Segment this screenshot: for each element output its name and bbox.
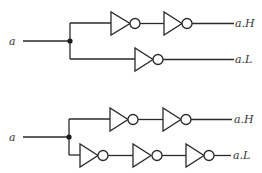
output-label: a.H: [235, 17, 255, 30]
input-label: a: [9, 131, 16, 144]
logic-diagram: a a.H a.L: [0, 0, 262, 173]
inverter-icon: [110, 108, 138, 131]
inverter-icon: [186, 144, 214, 167]
inverter-icon: [164, 12, 192, 35]
input-label: a: [9, 35, 16, 48]
path-a-l: a.L: [70, 48, 252, 71]
inverter-icon: [111, 12, 140, 35]
path-a-h: a.H: [70, 12, 255, 35]
circuit-bottom: a a.H: [9, 108, 254, 167]
path-a-h: a.H: [69, 108, 254, 131]
path-a-l: a.L: [69, 144, 250, 167]
output-label: a.L: [235, 53, 252, 66]
inverter-icon: [133, 144, 162, 167]
inverter-icon: [80, 144, 108, 167]
junction-dot: [66, 134, 71, 139]
junction-dot: [67, 38, 72, 43]
output-label: a.L: [233, 149, 250, 162]
inverter-icon: [135, 48, 163, 71]
output-label: a.H: [234, 113, 254, 126]
inverter-icon: [163, 108, 191, 131]
circuit-top: a a.H a.L: [9, 12, 255, 71]
